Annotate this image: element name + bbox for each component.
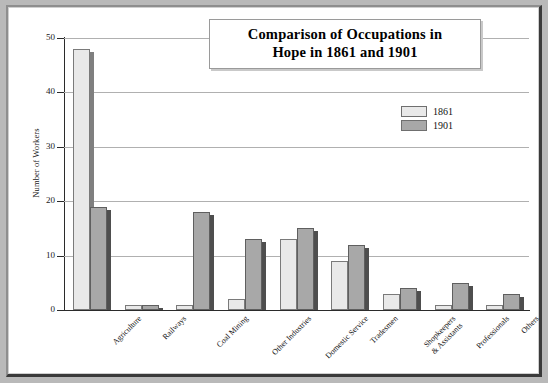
bar-face [331,261,348,310]
x-axis-tick-label: Agriculture [111,314,144,347]
bar-shadow [520,297,524,310]
bar-1861-domestic-service [280,239,297,310]
x-axis-tick-label: Railways [160,314,188,342]
legend-swatch-1901 [401,120,427,131]
bar-1901-other-industries [245,239,262,310]
bar-face [228,299,245,310]
chart-title-line-2: Hope in 1861 and 1901 [216,43,474,61]
bar-group [383,38,417,310]
bar-face [452,283,469,310]
bar-face [383,294,400,310]
y-axis-tick-mark [57,256,64,257]
bar-shadow [469,286,473,310]
x-axis-tick-label: Professionals [474,314,511,351]
y-axis-tick-label: 50 [25,32,55,42]
bar-1861-shopkeepers-assistants [383,294,400,310]
legend-item-1861: 1861 [401,105,471,118]
bar-1901-others [503,294,520,310]
bar-face [297,228,314,310]
bar-group [331,38,365,310]
bar-1861-other-industries [228,299,245,310]
bar-group [280,38,314,310]
x-axis-tick-labels: AgricultureRailwaysCoal MiningOther Indu… [64,310,530,383]
bar-1901-shopkeepers-assistants [400,288,417,310]
bar-shadow [210,215,214,310]
y-axis-tick-mark [57,201,64,202]
x-axis-tick-label: Tradesmen [368,314,400,346]
bar-1901-domestic-service [297,228,314,310]
bar-face [503,294,520,310]
bar-group [228,38,262,310]
figure-inner-border: 01020304050 Number of Workers Agricultur… [8,7,539,374]
bar-1901-agriculture [90,207,107,310]
bar-face [73,49,90,310]
chart-title-line-1: Comparison of Occupations in [216,25,474,43]
bar-shadow [365,248,369,310]
y-axis-tick-mark [57,38,64,39]
x-axis-tick-label: Others [519,314,541,336]
bar-shadow [262,242,266,310]
legend-label-1901: 1901 [433,120,453,131]
bar-group [176,38,210,310]
bar-face [280,239,297,310]
figure-frame: 01020304050 Number of Workers Agricultur… [6,5,542,377]
x-axis-tick-label: Coal Mining [215,314,250,349]
y-axis-tick-mark [57,147,64,148]
y-axis-tick-label: 10 [25,250,55,260]
bar-group [73,38,107,310]
bar-face [193,212,210,310]
x-axis-tick-label: Other Industries [270,314,313,357]
chart-title-box: Comparison of Occupations in Hope in 186… [209,19,481,69]
bar-1901-coal-mining [193,212,210,310]
y-axis-tick-mark [57,310,64,311]
bar-face [348,245,365,310]
bar-face [245,239,262,310]
bar-1901-tradesmen [348,245,365,310]
bar-face [90,207,107,310]
legend-swatch-1861 [401,106,427,117]
y-axis-tick-mark [57,92,64,93]
bar-shadow [417,291,421,310]
y-axis-tick-label: 40 [25,86,55,96]
plot-area [64,38,529,310]
legend-label-1861: 1861 [433,106,453,117]
bar-1861-agriculture [73,49,90,310]
y-axis-tick-label: 0 [25,304,55,314]
bar-1901-professionals [452,283,469,310]
y-axis-title: Number of Workers [31,103,41,223]
x-axis-tick-label: Shopkeepers & Assistants [422,314,464,356]
bar-shadow [107,210,111,310]
legend-item-1901: 1901 [401,119,471,132]
bar-group [125,38,159,310]
bar-face [400,288,417,310]
bar-1861-tradesmen [331,261,348,310]
bar-shadow [314,231,318,310]
x-axis-tick-label: Domestic Service [323,314,370,361]
bar-group [486,38,520,310]
bar-group [435,38,469,310]
chart-legend: 1861 1901 [401,105,471,133]
